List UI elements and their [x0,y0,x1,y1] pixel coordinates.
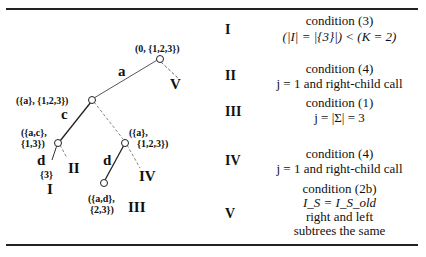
node-a2-label-1: ({a}, [129,127,148,138]
leaf-set-label: {3} [40,169,53,180]
row-text-1: condition (1) [257,96,422,110]
edge-label-a: a [118,63,126,80]
row-text-1: condition (4) [257,147,422,161]
case-V: V [170,76,181,93]
row-text-2: j = |Σ| = 3 [257,111,422,125]
case-I: I [47,181,53,198]
node-ad-label-2: {2,3}) [90,204,114,215]
row-text-2: I_S = I_S_old [257,196,422,210]
row-text-2: j = 1 and right-child call [257,162,422,176]
case-III: III [128,199,146,216]
node-root-label: (0, {1,2,3}) [135,43,180,54]
row-text-3: right and left [257,210,422,224]
edge-label-d2: d [103,152,111,169]
row-id: I [225,22,230,38]
edge-label-c: c [61,106,68,123]
row-id: III [225,104,241,120]
node-ad-label-1: ({a,d}, [88,193,115,204]
edge-label-d1: d [37,152,45,169]
case-II: II [68,160,80,177]
node-a-label: ({a}, {1,2,3}) [16,95,68,106]
node-ac-label-1: ({a,c}, [21,127,47,138]
node-ac-label-2: {1,3}) [21,138,45,149]
case-IV: IV [139,168,156,185]
row-id: II [225,68,236,84]
row-id: IV [225,153,241,169]
row-id: V [225,206,235,222]
row-text-2: (|I| = |{3}|) < (K = 2) [257,30,422,44]
row-text-1: condition (4) [257,62,422,76]
row-text-2: j = 1 and right-child call [257,77,422,91]
row-text-4: subtrees the same [257,224,422,238]
row-text-1: condition (3) [257,14,422,28]
row-text-1: condition (2b) [257,182,422,196]
node-a2-label-2: {1,2,3}) [137,138,168,149]
